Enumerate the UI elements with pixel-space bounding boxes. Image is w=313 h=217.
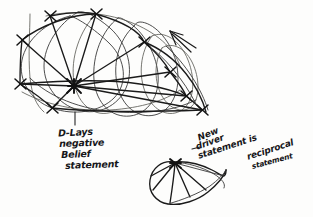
reciprocal-statement-label: reciprocal statement — [247, 152, 296, 172]
sketch-page: D-Lays negative Belief statement New dri… — [0, 0, 313, 217]
hub-node-x — [67, 79, 81, 93]
arrowhead-icon — [170, 31, 196, 52]
node-x — [17, 35, 28, 45]
fan-hub-node — [170, 159, 181, 168]
belief-label-line-4: statement — [65, 158, 119, 171]
fan-figure — [150, 159, 226, 204]
sketch-canvas — [0, 0, 313, 217]
belief-statement-label: D-Lays negative Belief statement — [58, 126, 118, 170]
main-graph-edges — [20, 13, 208, 112]
